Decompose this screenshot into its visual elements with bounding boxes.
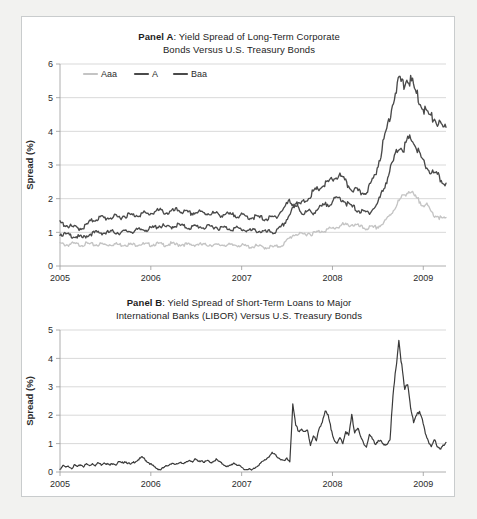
- ytick-label-2: 2: [48, 410, 53, 420]
- ytick-label-2: 2: [48, 194, 53, 204]
- ytick-label-0: 0: [48, 467, 53, 477]
- ytick-label-4: 4: [48, 127, 53, 137]
- panel-a: Panel A: Yield Spread of Long-Term Corpo…: [22, 21, 456, 289]
- ytick-label-3: 3: [48, 160, 53, 170]
- xtick-label-2006: 2006: [141, 479, 161, 489]
- legend-label-aaa: Aaa: [101, 69, 117, 79]
- panel-a-chart: 012345620052006200720082009Spread (%)Aaa…: [22, 56, 456, 288]
- ytick-label-5: 5: [48, 325, 53, 335]
- y-axis-title: Spread (%): [24, 376, 35, 426]
- panel-b-chart: 01234520052006200720082009Spread (%): [22, 322, 456, 494]
- ytick-label-0: 0: [48, 261, 53, 271]
- panel-a-title-bold: Panel A: [138, 31, 173, 42]
- legend-label-baa: Baa: [191, 69, 207, 79]
- ytick-label-5: 5: [48, 93, 53, 103]
- panel-b-title-line2: International Banks (LIBOR) Versus U.S. …: [116, 310, 362, 321]
- series-line-baa: [60, 75, 446, 230]
- panel-b-svg: 01234520052006200720082009Spread (%): [22, 322, 456, 494]
- figure-frame: Panel A: Yield Spread of Long-Term Corpo…: [21, 16, 455, 497]
- xtick-label-2005: 2005: [50, 273, 70, 283]
- panel-a-title: Panel A: Yield Spread of Long-Term Corpo…: [22, 21, 456, 56]
- xtick-label-2005: 2005: [50, 479, 70, 489]
- panel-b-title-bold: Panel B: [127, 297, 163, 308]
- ytick-label-4: 4: [48, 354, 53, 364]
- xtick-label-2008: 2008: [322, 273, 342, 283]
- xtick-label-2007: 2007: [232, 273, 252, 283]
- legend-label-a: A: [152, 69, 158, 79]
- panel-b-title: Panel B: Yield Spread of Short-Term Loan…: [22, 289, 456, 322]
- panel-b: Panel B: Yield Spread of Short-Term Loan…: [22, 289, 456, 494]
- xtick-label-2007: 2007: [232, 479, 252, 489]
- series-line-aaa: [60, 191, 446, 249]
- y-axis-title: Spread (%): [24, 140, 35, 190]
- panel-a-title-line2: Bonds Versus U.S. Treasury Bonds: [163, 44, 315, 55]
- xtick-label-2009: 2009: [413, 273, 433, 283]
- xtick-label-2006: 2006: [141, 273, 161, 283]
- panel-a-title-rest: : Yield Spread of Long-Term Corporate: [173, 31, 339, 42]
- xtick-label-2009: 2009: [413, 479, 433, 489]
- ytick-label-1: 1: [48, 228, 53, 238]
- ytick-label-1: 1: [48, 439, 53, 449]
- panel-b-title-rest: : Yield Spread of Short-Term Loans to Ma…: [162, 297, 351, 308]
- panel-a-svg: 012345620052006200720082009Spread (%)Aaa…: [22, 56, 456, 288]
- ytick-label-6: 6: [48, 59, 53, 69]
- xtick-label-2008: 2008: [322, 479, 342, 489]
- ytick-label-3: 3: [48, 382, 53, 392]
- series-line-a: [60, 135, 446, 238]
- series-line-libor-spread: [60, 340, 446, 470]
